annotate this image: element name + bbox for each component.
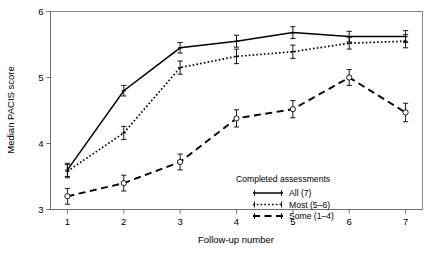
- legend-entry-label: Some (1–4): [289, 211, 334, 221]
- legend-entry-label: Most (5–6): [289, 200, 330, 210]
- marker-circle: [403, 110, 408, 115]
- data-point: [347, 37, 352, 49]
- x-axis-title: Follow-up number: [198, 234, 274, 245]
- marker-circle: [121, 181, 126, 186]
- marker-circle: [290, 107, 295, 112]
- data-point: [234, 35, 239, 47]
- data-point: [403, 103, 408, 121]
- legend-entry-group: All (7)Most (5–6)Some (1–4): [253, 188, 334, 221]
- y-tick-label: 4: [38, 138, 43, 149]
- data-point: [234, 110, 239, 127]
- data-point: [178, 43, 183, 54]
- line-chart-svg: 3456 Median PACIS score 1234567 Follow-u…: [0, 0, 432, 272]
- x-tick-label: 2: [121, 216, 126, 227]
- y-tick-group: 3456: [38, 6, 50, 215]
- data-point: [178, 61, 183, 74]
- legend-entry-label: All (7): [289, 188, 312, 198]
- data-point: [65, 188, 70, 204]
- x-tick-group: 1234567: [65, 210, 408, 227]
- data-point: [178, 154, 183, 170]
- data-point: [290, 45, 295, 58]
- marker-circle: [178, 159, 183, 164]
- y-axis-title: Median PACIS score: [5, 66, 16, 153]
- data-point: [290, 27, 295, 39]
- x-tick-label: 7: [403, 216, 408, 227]
- marker-circle: [347, 75, 352, 80]
- series-1: [65, 35, 408, 178]
- chart-legend: Completed assessments All (7)Most (5–6)S…: [236, 174, 334, 221]
- marker-circle: [65, 194, 70, 199]
- y-axis: 3456 Median PACIS score: [5, 6, 51, 215]
- data-point: [234, 49, 239, 64]
- x-axis: 1234567 Follow-up number: [51, 210, 423, 246]
- y-tick-label: 5: [38, 72, 43, 83]
- y-tick-label: 6: [38, 6, 43, 17]
- series-2: [65, 70, 408, 205]
- data-point: [121, 175, 126, 191]
- x-tick-label: 6: [347, 216, 352, 227]
- chart-figure: 3456 Median PACIS score 1234567 Follow-u…: [0, 0, 432, 272]
- x-tick-label: 3: [177, 216, 182, 227]
- marker-circle: [234, 116, 239, 121]
- x-tick-label: 4: [234, 216, 239, 227]
- data-point: [121, 126, 126, 139]
- data-point: [290, 101, 295, 118]
- data-point: [347, 70, 352, 86]
- x-tick-label: 1: [65, 216, 70, 227]
- y-tick-label: 3: [38, 204, 43, 215]
- legend-title: Completed assessments: [236, 174, 330, 184]
